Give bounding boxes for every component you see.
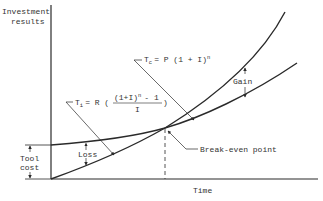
break-even-annotation: Break-even point — [168, 131, 277, 154]
break-even-label: Break-even point — [200, 145, 277, 154]
svg-text:): ) — [163, 98, 168, 107]
gain-label: Gain — [233, 77, 252, 86]
svg-text:Ti= R (: Ti= R ( — [75, 98, 109, 109]
y-axis-label-line1: Investment — [2, 7, 50, 16]
svg-text:(1+I)n- 1: (1+I)n- 1 — [114, 92, 159, 102]
svg-text:I: I — [135, 105, 140, 114]
tool-cost-label-line2: cost — [20, 163, 39, 172]
loss-label: Loss — [78, 150, 97, 159]
break-even-diagram: Investment results Time Tool cost Loss G… — [0, 0, 323, 201]
y-axis-label-line2: results — [11, 17, 45, 26]
tool-cost-label-line1: Tool — [20, 154, 39, 163]
svg-text:Tc= P (1 + I)n: Tc= P (1 + I)n — [144, 54, 210, 66]
t-c-formula: Tc= P (1 + I)n — [134, 54, 210, 120]
t-i-formula: Ti= R ( (1+I)n- 1 I ) — [66, 92, 168, 155]
x-axis-label: Time — [193, 186, 212, 195]
